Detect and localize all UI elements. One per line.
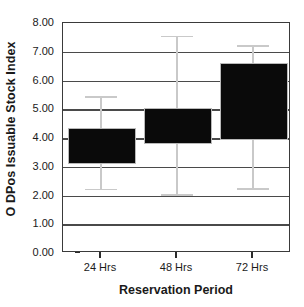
y-tick-mark (75, 252, 80, 253)
x-axis-title: Reservation Period (62, 283, 290, 297)
error-bar-cap-lower (85, 189, 117, 191)
error-bar-cap-lower (237, 188, 269, 190)
y-tick-label: 7.00 (33, 45, 54, 57)
x-tick-label: 72 Hrs (236, 261, 268, 273)
bar-24-hrs (68, 128, 136, 164)
bar-72-hrs (220, 63, 288, 140)
gridline (63, 224, 289, 226)
y-axis-tick-labels: 0.001.002.003.004.005.006.007.008.00 (18, 0, 58, 307)
chart-figure: O DPos Issuable Stock Index 0.001.002.00… (0, 0, 304, 307)
y-tick-label: 1.00 (33, 217, 54, 229)
x-tick-mark (251, 252, 253, 258)
y-tick-label: 6.00 (33, 74, 54, 86)
y-tick-label: 8.00 (33, 16, 54, 28)
bar-48-hrs (144, 108, 212, 144)
x-tick-mark (175, 252, 177, 258)
error-bar-cap-upper (85, 96, 117, 98)
error-bar-cap-upper (237, 45, 269, 47)
plot-area (62, 22, 290, 252)
error-bar-cap-upper (161, 36, 193, 38)
x-tick-label: 48 Hrs (160, 261, 192, 273)
x-tick-mark (99, 252, 101, 258)
y-tick-label: 0.00 (33, 246, 54, 258)
gridline (63, 196, 289, 198)
y-axis-title-text: O DPos Issuable Stock Index (4, 42, 18, 217)
y-tick-label: 5.00 (33, 102, 54, 114)
y-tick-label: 2.00 (33, 189, 54, 201)
x-tick-label: 24 Hrs (84, 261, 116, 273)
error-bar-cap-lower (161, 194, 193, 196)
y-tick-label: 4.00 (33, 131, 54, 143)
y-tick-label: 3.00 (33, 160, 54, 172)
